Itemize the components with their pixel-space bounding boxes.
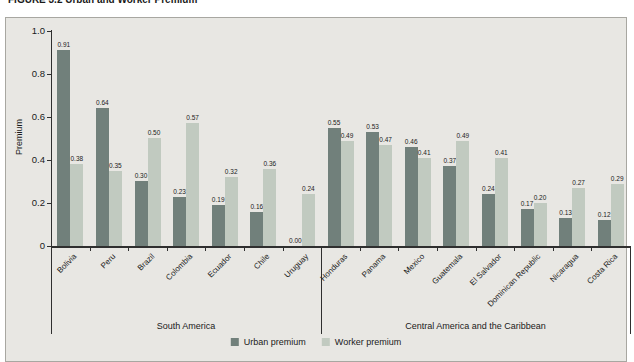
bar-urban <box>173 197 186 246</box>
x-tick-mark <box>553 247 554 251</box>
y-tick-label: 0.6 <box>15 112 45 122</box>
group-label: Central America and the Caribbean <box>405 321 546 331</box>
x-tick-mark <box>398 247 399 251</box>
y-tick-mark <box>47 31 51 32</box>
bar-worker <box>109 171 122 246</box>
bar-worker <box>186 123 199 246</box>
bar-value-label: 0.91 <box>57 41 70 49</box>
bar-value-label: 0.00 <box>289 237 302 245</box>
bar-value-label: 0.12 <box>598 211 611 219</box>
bar-value-label: 0.47 <box>379 136 392 144</box>
group-label: South America <box>157 321 216 331</box>
bar-worker <box>302 194 315 246</box>
bar-value-label: 0.38 <box>70 155 83 163</box>
bar-value-label: 0.35 <box>109 162 122 170</box>
plot-area: 00.20.40.60.81.00.910.38Bolivia0.640.35P… <box>6 18 626 361</box>
bar-value-label: 0.41 <box>418 149 431 157</box>
bar-value-label: 0.24 <box>302 185 315 193</box>
bar-worker <box>611 184 624 246</box>
x-axis-line <box>51 246 631 248</box>
bar-value-label: 0.20 <box>534 194 547 202</box>
legend-label: Urban premium <box>244 337 306 347</box>
bar-urban <box>405 147 418 246</box>
bar-urban <box>559 218 572 246</box>
bar-worker <box>534 203 547 246</box>
bar-value-label: 0.49 <box>456 132 469 140</box>
bar-value-label: 0.55 <box>328 119 341 127</box>
y-tick-label: 0.2 <box>15 198 45 208</box>
bar-urban <box>250 212 263 246</box>
y-tick-label: 0.8 <box>15 69 45 79</box>
x-tick-mark <box>437 247 438 251</box>
group-divider <box>51 246 52 334</box>
bar-value-label: 0.50 <box>148 129 161 137</box>
bar-value-label: 0.64 <box>96 99 109 107</box>
bar-worker <box>225 177 238 246</box>
bar-value-label: 0.46 <box>405 138 418 146</box>
bar-urban <box>366 132 379 246</box>
bar-value-label: 0.19 <box>212 196 225 204</box>
chart-legend: Urban premiumWorker premium <box>231 337 401 347</box>
y-tick-mark <box>47 74 51 75</box>
bar-value-label: 0.41 <box>495 149 508 157</box>
bar-worker <box>148 138 161 246</box>
x-tick-mark <box>360 247 361 251</box>
bar-worker <box>379 145 392 246</box>
bar-urban <box>328 128 341 246</box>
bar-worker <box>341 141 354 246</box>
legend-item: Worker premium <box>322 337 401 347</box>
bar-worker <box>418 158 431 246</box>
legend-item: Urban premium <box>231 337 306 347</box>
x-tick-mark <box>128 247 129 251</box>
y-tick-mark <box>47 160 51 161</box>
y-tick-label: 0 <box>15 241 45 251</box>
bar-value-label: 0.27 <box>572 179 585 187</box>
x-tick-mark <box>514 247 515 251</box>
bar-value-label: 0.23 <box>173 188 186 196</box>
bar-value-label: 0.30 <box>135 172 148 180</box>
legend-label: Worker premium <box>335 337 401 347</box>
bar-urban <box>212 205 225 246</box>
figure-title-text: FIGURE 3.2 Urban and Worker Premium <box>8 0 448 6</box>
bar-value-label: 0.49 <box>341 132 354 140</box>
bar-value-label: 0.37 <box>443 157 456 165</box>
bar-urban <box>57 50 70 246</box>
bar-worker <box>495 158 508 246</box>
figure-page: FIGURE 3.2 Urban and Worker Premium Prem… <box>0 0 634 362</box>
bar-value-label: 0.24 <box>482 185 495 193</box>
y-tick-mark <box>47 203 51 204</box>
bar-value-label: 0.16 <box>250 203 263 211</box>
bar-urban <box>598 220 611 246</box>
x-tick-mark <box>591 247 592 251</box>
x-tick-mark <box>244 247 245 251</box>
bar-value-label: 0.53 <box>366 123 379 131</box>
bar-worker <box>572 188 585 246</box>
bar-urban <box>521 209 534 246</box>
bar-worker <box>456 141 469 246</box>
x-tick-mark <box>167 247 168 251</box>
group-divider <box>321 246 322 334</box>
x-tick-mark <box>90 247 91 251</box>
x-tick-mark <box>205 247 206 251</box>
bar-urban <box>135 181 148 246</box>
y-tick-label: 0.4 <box>15 155 45 165</box>
group-divider <box>630 246 631 334</box>
bar-urban <box>482 194 495 246</box>
legend-swatch-worker <box>322 338 330 346</box>
figure-title-clipped: FIGURE 3.2 Urban and Worker Premium <box>8 0 448 6</box>
chart-panel: Premium 00.20.40.60.81.00.910.38Bolivia0… <box>5 17 627 362</box>
x-tick-mark <box>283 247 284 251</box>
bar-value-label: 0.17 <box>521 200 534 208</box>
y-tick-mark <box>47 117 51 118</box>
bar-urban <box>443 166 456 246</box>
bar-urban <box>96 108 109 246</box>
bar-value-label: 0.13 <box>559 209 572 217</box>
legend-swatch-urban <box>231 338 239 346</box>
bar-value-label: 0.57 <box>186 114 199 122</box>
bar-value-label: 0.32 <box>225 168 238 176</box>
bar-worker <box>70 164 83 246</box>
bar-worker <box>263 169 276 246</box>
x-tick-mark <box>476 247 477 251</box>
y-axis-line <box>51 30 52 247</box>
bar-value-label: 0.29 <box>611 175 624 183</box>
